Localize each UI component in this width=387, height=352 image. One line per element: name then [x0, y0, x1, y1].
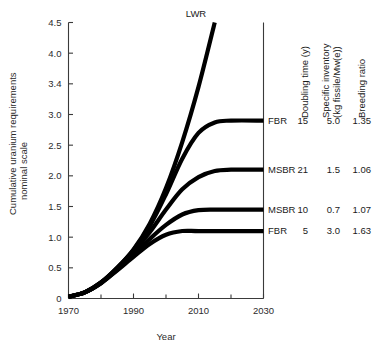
column-header-specific-inventory-line2: (kg fissile/Mw(e)) [331, 46, 342, 118]
y-tick-label: 4.5 [48, 17, 61, 28]
series-label-lwr: LWR [186, 8, 207, 19]
column-header-specific-inventory-line1: Specific inventory [320, 43, 331, 118]
legend-reactor-label: MSBR [268, 164, 296, 175]
legend-specific-inventory: 0.7 [327, 204, 340, 215]
y-tick-label: 2.5 [48, 140, 61, 151]
y-tick-label: 4.0 [48, 48, 61, 59]
y-tick-label: 1.5 [48, 201, 61, 212]
legend-breeding-ratio: 1.35 [353, 115, 372, 126]
y-axis-title-line2: nominal scale [18, 142, 29, 200]
y-axis-title-line1: Cumulative uranium requirements [7, 72, 18, 215]
y-tick-label: 0 [56, 293, 61, 304]
legend-breeding-ratio: 1.06 [353, 164, 372, 175]
x-axis-title: Year [156, 331, 175, 342]
legend-breeding-ratio: 1.07 [353, 204, 372, 215]
x-tick-label: 2010 [188, 305, 209, 316]
x-tick-label: 2030 [253, 305, 274, 316]
y-tick-label: 1.0 [48, 232, 61, 243]
legend-doubling-time: 21 [297, 164, 308, 175]
y-tick-label: 3.4 [48, 78, 61, 89]
legend-specific-inventory: 5.0 [327, 115, 340, 126]
legend-doubling-time: 10 [297, 204, 308, 215]
legend-breeding-ratio: 1.63 [353, 225, 372, 236]
legend-specific-inventory: 1.5 [327, 164, 340, 175]
legend-reactor-label: FBR [268, 115, 287, 126]
column-header-breeding-ratio: Breeding ratio [356, 59, 367, 118]
column-header-doubling-time: Doubling time (y) [299, 46, 310, 118]
legend-specific-inventory: 3.0 [327, 225, 340, 236]
chart-figure: Cumulative uranium requirements nominal … [0, 0, 387, 352]
legend-doubling-time: 5 [303, 225, 308, 236]
y-tick-label: 2.0 [48, 170, 61, 181]
legend-reactor-label: FBR [268, 225, 287, 236]
x-tick-label: 1970 [58, 305, 79, 316]
y-tick-label: 3.0 [48, 109, 61, 120]
legend-reactor-label: MSBR [268, 204, 296, 215]
x-tick-label: 1990 [123, 305, 144, 316]
legend-doubling-time: 15 [297, 115, 308, 126]
y-tick-label: 0.5 [48, 262, 61, 273]
